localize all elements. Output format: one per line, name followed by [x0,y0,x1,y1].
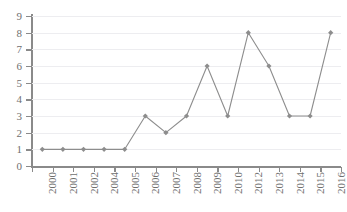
data-point-marker [266,63,271,68]
y-axis-tick-label: 6 [17,61,23,72]
x-axis-tick-labels: 2000200120022004200520062007200820092010… [32,172,341,212]
x-axis-tick-label: 2005 [130,172,141,194]
y-axis-tick-label: 2 [17,127,23,138]
data-point-marker [225,113,230,118]
data-point-marker [122,147,127,152]
x-axis-line [31,166,341,168]
line-chart: 0123456789 20002001200220042005200620072… [0,0,347,212]
x-axis-tick-label: 2008 [192,172,203,194]
data-series [32,16,341,166]
data-point-marker [40,147,45,152]
data-point-marker [81,147,86,152]
y-axis-tick-labels: 0123456789 [0,0,26,212]
y-axis-tick-label: 8 [17,27,23,38]
y-axis-tick-label: 0 [17,161,23,172]
data-point-marker [287,113,292,118]
x-axis-tick-label: 2015 [315,172,326,194]
x-axis-tick-label: 2009 [212,172,223,194]
x-axis-tick-label: 2001 [68,172,79,194]
y-axis-tick-label: 7 [17,44,23,55]
series-line [42,33,330,150]
y-axis-tick-label: 1 [17,144,23,155]
data-point-marker [205,63,210,68]
data-point-marker [328,30,333,35]
y-axis-tick-label: 3 [17,111,23,122]
data-point-marker [102,147,107,152]
x-axis-tick-label: 2012 [253,172,264,194]
data-point-marker [246,30,251,35]
data-point-marker [60,147,65,152]
x-axis-tick-label: 2000 [47,172,58,194]
x-axis-tick-label: 2016 [336,172,347,194]
x-axis-tick-label: 2013 [274,172,285,194]
x-axis-tick-label: 2006 [150,172,161,194]
x-axis-tick-label: 2014 [295,172,306,194]
x-axis-tick-label: 2004 [109,172,120,194]
x-axis-tick-label: 2007 [171,172,182,194]
y-axis-tick-label: 5 [17,77,23,88]
x-axis-tick-label: 2002 [89,172,100,194]
y-axis-tick-label: 4 [17,94,23,105]
y-axis-tick-label: 9 [17,11,23,22]
x-axis-tick-label: 2010 [233,172,244,194]
plot-area [32,16,341,166]
data-point-marker [308,113,313,118]
